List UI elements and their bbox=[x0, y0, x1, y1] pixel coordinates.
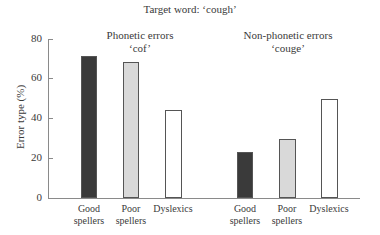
y-tick-label-20: 20 bbox=[22, 151, 42, 163]
x-label-nonphonetic-dyslexics: Dyslexics bbox=[304, 203, 354, 215]
y-tick-60 bbox=[48, 78, 53, 79]
y-tick-label-0: 0 bbox=[22, 191, 42, 203]
bar-nonphonetic-good-spellers bbox=[237, 152, 253, 198]
bar-phonetic-poor-spellers bbox=[123, 62, 139, 198]
group-title-phonetic-line2: ‘cof’ bbox=[60, 42, 220, 55]
x-label-line2: spellers bbox=[262, 215, 312, 227]
y-tick-label-40: 40 bbox=[22, 111, 42, 123]
bar-phonetic-dyslexics bbox=[165, 110, 182, 198]
x-label-line1: Dyslexics bbox=[304, 203, 354, 215]
group-title-nonphonetic: Non-phonetic errors ‘couge’ bbox=[208, 29, 368, 55]
bar-nonphonetic-dyslexics bbox=[321, 99, 338, 198]
y-tick-label-80: 80 bbox=[22, 32, 42, 44]
y-tick-label-60: 60 bbox=[22, 71, 42, 83]
group-title-nonphonetic-line2: ‘couge’ bbox=[208, 42, 368, 55]
x-label-line2: spellers bbox=[106, 215, 156, 227]
x-axis bbox=[48, 198, 360, 199]
y-tick-80 bbox=[48, 39, 53, 40]
x-label-phonetic-dyslexics: Dyslexics bbox=[148, 203, 198, 215]
bar-phonetic-good-spellers bbox=[81, 56, 97, 198]
group-title-phonetic-line1: Phonetic errors bbox=[60, 29, 220, 42]
group-title-nonphonetic-line1: Non-phonetic errors bbox=[208, 29, 368, 42]
bar-nonphonetic-poor-spellers bbox=[279, 139, 296, 198]
y-tick-20 bbox=[48, 158, 53, 159]
x-label-line1: Dyslexics bbox=[148, 203, 198, 215]
y-tick-40 bbox=[48, 118, 53, 119]
chart-title: Target word: ‘cough’ bbox=[0, 3, 380, 15]
group-title-phonetic: Phonetic errors ‘cof’ bbox=[60, 29, 220, 55]
